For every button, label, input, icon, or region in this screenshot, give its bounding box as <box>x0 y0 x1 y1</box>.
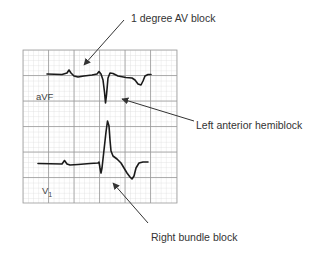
lead-label-v1-subscript: 1 <box>48 191 52 198</box>
ecg-diagram: aVF V1 1 degree AV block Left anterior h… <box>0 0 314 257</box>
lead-label-v1: V1 <box>42 185 52 198</box>
annotation-right-bundle-block: Right bundle block <box>151 231 237 243</box>
lead-label-avf: aVF <box>36 91 53 102</box>
annotation-av-block: 1 degree AV block <box>131 12 215 24</box>
annotation-left-anterior-hemiblock: Left anterior hemiblock <box>196 119 302 131</box>
